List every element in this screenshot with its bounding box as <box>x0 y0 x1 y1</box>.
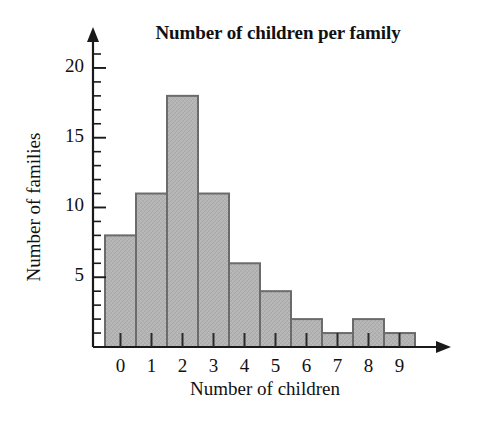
y-tick-label-20: 20 <box>50 55 84 77</box>
bar-0 <box>105 235 136 347</box>
y-tick-label-5: 5 <box>50 264 84 286</box>
bar-2 <box>167 96 198 347</box>
y-tick-label-10: 10 <box>50 194 84 216</box>
x-tick-label-0: 0 <box>108 355 134 377</box>
y-tick-label-15: 15 <box>50 125 84 147</box>
x-tick-label-9: 9 <box>387 355 413 377</box>
x-tick-label-8: 8 <box>356 355 382 377</box>
x-tick-label-7: 7 <box>325 355 351 377</box>
y-axis-arrow-icon <box>87 27 99 42</box>
x-tick-label-5: 5 <box>263 355 289 377</box>
x-tick-label-2: 2 <box>170 355 196 377</box>
x-tick-label-6: 6 <box>294 355 320 377</box>
x-tick-label-4: 4 <box>232 355 258 377</box>
histogram-figure: Number of children per family Number of … <box>0 0 491 422</box>
x-tick-label-1: 1 <box>139 355 165 377</box>
bar-1 <box>136 194 167 347</box>
bars-group <box>105 96 415 347</box>
x-axis-arrow-icon <box>436 341 451 353</box>
x-tick-label-3: 3 <box>201 355 227 377</box>
bar-3 <box>198 194 229 347</box>
